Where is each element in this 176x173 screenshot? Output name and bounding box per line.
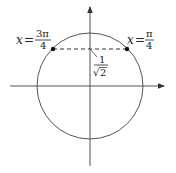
height-leader-line: [91, 50, 97, 57]
label-x-3pi-over-4: x = 3π 4: [16, 28, 51, 51]
label-one-over-sqrt2: 1 √ 2: [93, 54, 108, 78]
label-left-eq: =: [24, 33, 34, 47]
label-height-numerator: 1: [99, 54, 105, 65]
point-pi-4: [125, 47, 129, 51]
label-x-pi-over-4: x = π 4: [127, 28, 154, 51]
label-right-var: x: [127, 33, 134, 47]
label-left-numerator: 3π: [36, 28, 49, 39]
label-left-var: x: [16, 33, 23, 47]
point-3pi-4: [51, 47, 55, 51]
label-height-radical: √: [93, 67, 100, 78]
label-right-eq: =: [135, 33, 145, 47]
label-right-denominator: 4: [146, 40, 152, 51]
label-right-numerator: π: [146, 28, 153, 39]
label-height-denominator: 2: [100, 67, 106, 78]
unit-circle-diagram: x = 3π 4 x = π 4 1 √ 2: [0, 0, 176, 173]
label-left-denominator: 4: [40, 40, 46, 51]
